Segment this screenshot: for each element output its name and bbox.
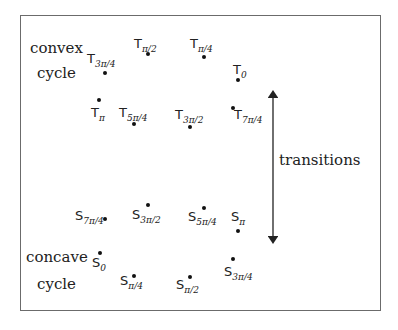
convex-point-dot bbox=[132, 122, 136, 126]
concave-label: concave bbox=[26, 248, 88, 266]
concave-point-dot bbox=[103, 217, 107, 221]
concave-point-label: Sπ/2 bbox=[176, 278, 199, 295]
convex-label: convex bbox=[30, 39, 83, 57]
concave-point-label: Sπ bbox=[231, 210, 245, 227]
concave-point-dot bbox=[202, 206, 206, 210]
convex-point-label: Tπ/2 bbox=[134, 37, 157, 54]
convex-point-label: T0 bbox=[233, 63, 247, 80]
convex-point-dot bbox=[231, 106, 235, 110]
convex-point-label: T3π/2 bbox=[175, 108, 203, 125]
concave-point-dot bbox=[146, 203, 150, 207]
convex-point-dot bbox=[188, 125, 192, 129]
concave-point-label: S7π/4 bbox=[75, 209, 104, 226]
convex-point-dot bbox=[103, 71, 107, 75]
convex-point-label: T3π/4 bbox=[87, 52, 115, 69]
concave-point-dot bbox=[98, 251, 102, 255]
concave-cycle-label: cycle bbox=[37, 275, 76, 293]
convex-point-dot bbox=[236, 78, 240, 82]
convex-point-dot bbox=[97, 98, 101, 102]
concave-point-label: S5π/4 bbox=[188, 210, 217, 227]
concave-point-dot bbox=[236, 229, 240, 233]
convex-cycle-label: cycle bbox=[37, 64, 76, 82]
concave-point-dot bbox=[132, 274, 136, 278]
convex-point-label: T7π/4 bbox=[234, 108, 262, 125]
concave-point-label: S3π/4 bbox=[224, 265, 253, 282]
concave-point-label: S0 bbox=[92, 256, 106, 273]
transitions-label: transitions bbox=[279, 151, 361, 169]
concave-point-label: S3π/2 bbox=[132, 208, 161, 225]
convex-point-label: T5π/4 bbox=[119, 106, 147, 123]
convex-point-dot bbox=[202, 55, 206, 59]
convex-point-dot bbox=[146, 52, 150, 56]
concave-point-dot bbox=[188, 275, 192, 279]
convex-point-label: Tπ/4 bbox=[190, 37, 213, 54]
convex-point-label: Tπ bbox=[91, 106, 105, 123]
concave-point-dot bbox=[231, 257, 235, 261]
